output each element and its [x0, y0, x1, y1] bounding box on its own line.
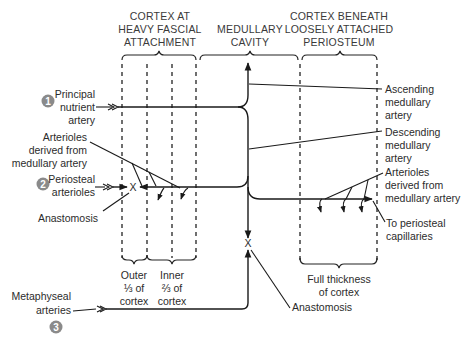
svg-text:2: 2 [40, 179, 46, 190]
label-anastomosis-center: Anastomosis [292, 301, 352, 313]
svg-text:nutrient: nutrient [60, 101, 95, 113]
right-arteriole-down-3 [361, 199, 364, 212]
svg-text:medullary artery: medullary artery [385, 192, 461, 204]
right-arteriole-down-2 [343, 199, 346, 212]
bracket-top-right [302, 51, 377, 60]
bracket-top-middle [200, 51, 298, 60]
svg-text:HEAVY FASCIAL: HEAVY FASCIAL [118, 23, 201, 35]
right-arteriole-2 [364, 180, 368, 199]
svg-text:PERIOSTEUM: PERIOSTEUM [303, 36, 374, 48]
svg-text:artery: artery [385, 109, 413, 121]
svg-text:cortex: cortex [120, 295, 149, 307]
bone-blood-supply-diagram: CORTEX AT HEAVY FASCIAL ATTACHMENT MEDUL… [0, 0, 469, 345]
anastomosis-center-pointer [251, 250, 290, 308]
svg-text:derived from: derived from [29, 144, 88, 156]
svg-text:artery: artery [385, 152, 413, 164]
svg-text:Metaphyseal: Metaphyseal [11, 290, 71, 302]
svg-text:Descending: Descending [385, 126, 441, 138]
svg-text:arterioles: arterioles [52, 186, 95, 198]
svg-text:LOOSELY ATTACHED: LOOSELY ATTACHED [285, 23, 394, 35]
ascending-pointer [249, 84, 382, 89]
svg-text:CAVITY: CAVITY [231, 36, 269, 48]
svg-text:derived from: derived from [385, 179, 444, 191]
svg-text:Ascending: Ascending [385, 83, 434, 95]
svg-text:capillaries: capillaries [386, 230, 433, 242]
label-metaphyseal-arteries: Metaphyseal arteries [11, 290, 71, 316]
label-periosteal-arterioles: Periosteal arterioles [48, 173, 95, 198]
label-periosteal-capillaries: To periosteal capillaries [386, 217, 446, 242]
periosteal-capillaries-pointer [373, 201, 385, 222]
svg-text:Full thickness: Full thickness [307, 273, 371, 285]
svg-text:To periosteal: To periosteal [386, 217, 446, 229]
svg-text:artery: artery [68, 114, 96, 126]
svg-text:medullary: medullary [385, 96, 431, 108]
header-cortex-periosteum: CORTEX BENEATH LOOSELY ATTACHED PERIOSTE… [285, 10, 394, 48]
medullary-right-branch [248, 187, 372, 199]
bracket-top-left [122, 51, 196, 60]
left-arteriole-down-2 [181, 188, 188, 199]
svg-text:3: 3 [53, 322, 59, 333]
descending-pointer [249, 131, 382, 149]
svg-text:CORTEX AT: CORTEX AT [130, 10, 191, 22]
label-right-arterioles: Arterioles derived from medullary artery [385, 166, 461, 204]
svg-text:Arterioles: Arterioles [43, 131, 87, 143]
right-arteriole-down-1 [320, 199, 322, 212]
header-medullary-cavity: MEDULLARY CAVITY [217, 23, 283, 48]
svg-text:Inner: Inner [160, 269, 184, 281]
svg-text:medullary: medullary [385, 139, 431, 151]
marker-3: 3 [50, 321, 63, 334]
label-full-thickness: Full thickness of cortex [307, 273, 371, 298]
anastomosis-mark-center: X [244, 237, 251, 249]
svg-text:Arterioles: Arterioles [385, 166, 429, 178]
bracket-bottom-outer [122, 255, 147, 264]
svg-text:arteries: arteries [36, 304, 71, 316]
svg-text:CORTEX BENEATH: CORTEX BENEATH [290, 10, 388, 22]
label-ascending-medullary-artery: Ascending medullary artery [385, 83, 434, 121]
left-arteriole-down-1 [158, 188, 164, 200]
svg-text:of cortex: of cortex [319, 286, 360, 298]
label-descending-medullary-artery: Descending medullary artery [385, 126, 441, 164]
right-arterioles-pointer [325, 173, 383, 199]
label-principal-nutrient-artery: Principal nutrient artery [55, 88, 96, 126]
bracket-bottom-full [300, 258, 377, 268]
label-anastomosis-left: Anastomosis [38, 212, 98, 224]
svg-text:MEDULLARY: MEDULLARY [217, 23, 283, 35]
svg-text:Periosteal: Periosteal [48, 173, 95, 185]
label-left-arterioles: Arterioles derived from medullary artery [12, 131, 88, 169]
anastomosis-left-pointer [103, 193, 129, 211]
label-outer-cortex: Outer ⅓ of cortex [120, 269, 149, 307]
svg-text:cortex: cortex [158, 295, 187, 307]
svg-text:1: 1 [45, 96, 51, 107]
svg-text:⅓ of: ⅓ of [124, 282, 145, 294]
svg-text:ATTACHMENT: ATTACHMENT [124, 36, 197, 48]
marker-1: 1 [42, 95, 55, 108]
cortex-boundaries [122, 64, 377, 260]
label-inner-cortex: Inner ⅔ of cortex [158, 269, 187, 307]
svg-text:Principal: Principal [55, 88, 95, 100]
header-cortex-fascial: CORTEX AT HEAVY FASCIAL ATTACHMENT [118, 10, 201, 48]
anastomosis-mark-left: X [129, 181, 136, 193]
svg-text:⅔ of: ⅔ of [162, 282, 183, 294]
svg-text:Outer: Outer [121, 269, 148, 281]
svg-text:medullary artery: medullary artery [12, 157, 88, 169]
